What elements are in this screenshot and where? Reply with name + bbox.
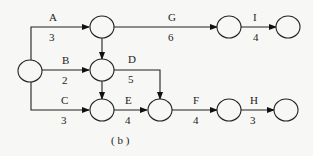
node-1 bbox=[18, 60, 42, 82]
label-A: A bbox=[49, 11, 57, 23]
duration-C: 3 bbox=[61, 114, 67, 126]
label-B: B bbox=[62, 54, 69, 66]
node-5 bbox=[148, 99, 172, 121]
duration-E: 4 bbox=[125, 114, 131, 126]
label-C: C bbox=[61, 94, 68, 106]
node-4 bbox=[90, 99, 114, 121]
arrow-D bbox=[114, 70, 160, 99]
duration-H: 3 bbox=[250, 114, 256, 126]
label-I: I bbox=[253, 11, 257, 23]
node-2 bbox=[90, 16, 114, 38]
duration-B: 2 bbox=[62, 74, 68, 86]
arrow-A bbox=[31, 27, 89, 60]
network-diagram: A 3 B 2 C 3 D 5 E 4 G 6 I 4 F 4 H 3 ( b … bbox=[0, 0, 313, 156]
node-6 bbox=[217, 16, 241, 38]
node-9 bbox=[274, 99, 298, 121]
duration-G: 6 bbox=[168, 31, 174, 43]
duration-F: 4 bbox=[193, 114, 199, 126]
label-G: G bbox=[168, 11, 176, 23]
label-F: F bbox=[193, 94, 199, 106]
duration-D: 5 bbox=[128, 73, 134, 85]
label-D: D bbox=[128, 53, 136, 65]
arrow-C bbox=[31, 82, 89, 110]
node-8 bbox=[217, 99, 241, 121]
node-7 bbox=[276, 16, 300, 38]
node-3 bbox=[90, 59, 114, 81]
figure-caption: ( b ) bbox=[111, 134, 130, 147]
duration-I: 4 bbox=[253, 31, 259, 43]
duration-A: 3 bbox=[49, 31, 55, 43]
label-E: E bbox=[125, 94, 132, 106]
label-H: H bbox=[250, 94, 258, 106]
